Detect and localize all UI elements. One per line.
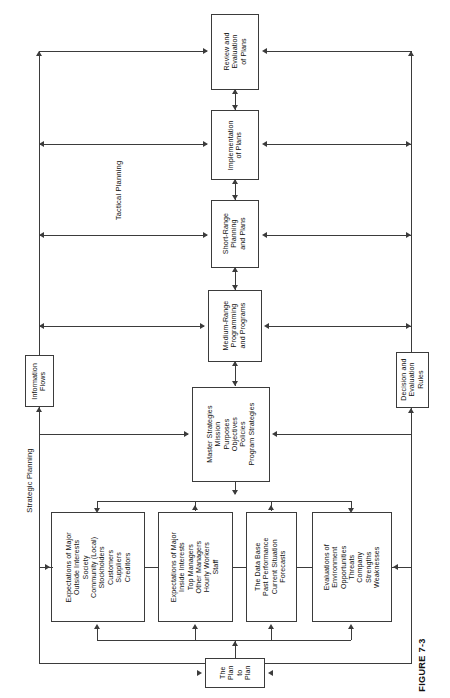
plan-to-plan-output-arrow: [232, 641, 238, 646]
row4-left-feed-line: [39, 326, 204, 327]
input-chain-left-arrow: [45, 564, 50, 570]
collector-riser-3-arrow: [268, 624, 274, 629]
box-expectations-inside-interests-label: Expectations of Major Inside Interests T…: [170, 532, 220, 602]
box-information-flows[interactable]: Information Flows: [25, 355, 54, 407]
row2-left-feed-line: [39, 144, 207, 145]
box-decision-evaluation-rules-label: Decision and Evaluation Rules: [400, 359, 425, 401]
row5-left-feed-arrow: [184, 431, 189, 437]
right-spine-top-arrow: [408, 51, 414, 56]
left-spine-top-arrow: [36, 51, 42, 56]
input-chain-1-2: [145, 567, 159, 568]
plan-to-plan-collector-bus: [97, 640, 351, 641]
row1-left-feed-line: [39, 51, 207, 52]
input-chain-2-3: [233, 567, 247, 568]
box-evaluations-of-environment-label: Evaluations of Environment Opportunities…: [323, 544, 382, 590]
row1-right-feed-arrow: [262, 48, 267, 54]
row4-left-spine-arrow: [39, 323, 44, 329]
collector-riser-2-arrow: [192, 624, 198, 629]
row4-right-feed-line: [266, 326, 411, 327]
box-review-evaluation-of-plans[interactable]: Review and Evaluation of Plans: [211, 14, 259, 90]
row5-right-feed-arrow: [272, 431, 277, 437]
row4-right-spine-arrow: [406, 323, 411, 329]
row1-left-feed-arrow: [203, 48, 208, 54]
input-distribution-bus: [97, 501, 351, 502]
bus-drop-3-arrow: [268, 505, 274, 510]
box-master-strategies[interactable]: Master Strategies Mission Purposes Objec…: [192, 387, 270, 482]
box-implementation-of-plans-label: Implementation of Plans: [227, 120, 244, 170]
box-review-evaluation-of-plans-label: Review and Evaluation of Plans: [222, 33, 247, 71]
link-implementation-shortrange-arrow-up: [232, 179, 238, 184]
input-chain-3-4: [297, 567, 313, 568]
box-the-data-base-label: The Data Base Past Performance Current S…: [255, 538, 288, 596]
link-mediumrange-masterstrategies-arrow-down: [232, 381, 238, 386]
box-short-range-planning-and-plans-label: Short-Range Planning and Plans: [222, 213, 247, 254]
link-review-implementation-arrow-up: [232, 89, 238, 94]
box-evaluations-of-environment[interactable]: Evaluations of Environment Opportunities…: [312, 512, 392, 622]
box-expectations-outside-interests[interactable]: Expectations of Major Outside Interests …: [51, 512, 145, 622]
collector-riser-4: [351, 629, 352, 640]
box-short-range-planning-and-plans[interactable]: Short-Range Planning and Plans: [211, 200, 259, 268]
information-flows-input-arrow: [36, 407, 42, 412]
row4-left-feed-arrow: [200, 323, 205, 329]
box-decision-evaluation-rules[interactable]: Decision and Evaluation Rules: [396, 352, 429, 408]
figure-7-3-diagram: Review and Evaluation of Plans Implement…: [0, 0, 450, 698]
box-the-plan-to-plan[interactable]: The Plan to Plan: [205, 658, 265, 688]
collector-riser-3: [271, 629, 272, 640]
box-medium-range-programming-and-programs[interactable]: Medium-Range Programming and Programs: [208, 290, 262, 362]
row3-right-feed-arrow: [262, 232, 267, 238]
decision-rules-input-arrow: [408, 408, 414, 413]
row1-right-feed-line: [264, 51, 411, 52]
box-expectations-outside-interests-label: Expectations of Major Outside Interests …: [65, 532, 132, 602]
box-information-flows-label: Information Flows: [31, 363, 48, 400]
box-medium-range-programming-and-programs-label: Medium-Range Programming and Programs: [222, 301, 247, 351]
master-strategies-output-arrow: [232, 490, 238, 495]
row5-left-feed-line: [39, 434, 188, 435]
row2-right-feed-arrow: [262, 141, 267, 147]
box-expectations-inside-interests[interactable]: Expectations of Major Inside Interests T…: [158, 512, 233, 622]
row2-left-spine-arrow: [39, 141, 44, 147]
collector-riser-2: [195, 629, 196, 640]
row3-left-feed-arrow: [203, 232, 208, 238]
collector-riser-1: [97, 629, 98, 640]
link-shortrange-mediumrange-arrow-up: [232, 267, 238, 272]
box-the-data-base[interactable]: The Data Base Past Performance Current S…: [246, 512, 297, 622]
row2-right-feed-line: [264, 144, 411, 145]
box-implementation-of-plans[interactable]: Implementation of Plans: [211, 110, 259, 180]
box-the-plan-to-plan-label: The Plan to Plan: [218, 666, 251, 681]
link-mediumrange-masterstrategies-arrow-up: [232, 361, 238, 366]
row5-right-feed-line: [274, 434, 411, 435]
figure-caption: FIGURE 7-3: [417, 638, 427, 692]
row3-right-feed-line: [264, 235, 411, 236]
label-strategic-planning: Strategic Planning: [25, 448, 34, 512]
collector-riser-4-arrow: [348, 624, 354, 629]
row3-left-spine-arrow: [39, 232, 44, 238]
bus-drop-2-arrow: [192, 505, 198, 510]
collector-riser-1-arrow: [94, 624, 100, 629]
row4-right-feed-arrow: [264, 323, 269, 329]
row2-left-feed-arrow: [203, 141, 208, 147]
plan-to-plan-left-input-arrow: [197, 670, 202, 676]
plan-to-plan-right-input-arrow: [268, 670, 273, 676]
input-chain-right-arrow: [393, 564, 398, 570]
row3-right-spine-arrow: [406, 232, 411, 238]
row2-right-spine-arrow: [406, 141, 411, 147]
label-tactical-planning: Tactical Planning: [114, 161, 123, 221]
box-master-strategies-label: Master Strategies Mission Purposes Objec…: [206, 403, 256, 466]
row3-left-feed-line: [39, 235, 207, 236]
